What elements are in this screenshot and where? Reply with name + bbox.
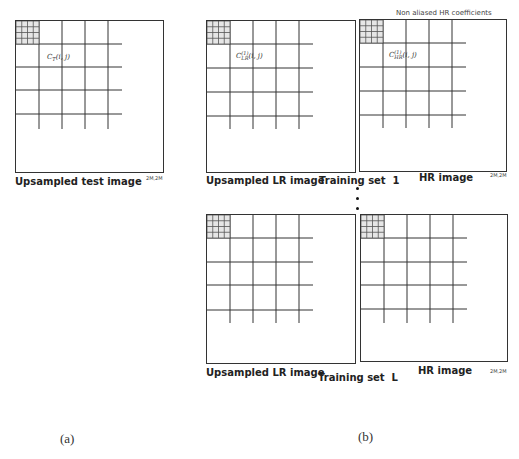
non-aliased-hr-annotation: Non aliased HR coefficients <box>396 9 492 17</box>
training-set-l-hr-label: HR image <box>418 365 472 376</box>
training-set-l-lr-panel <box>206 214 356 364</box>
training-set-1-hr-label: HR image <box>419 172 473 183</box>
training-set-l-lr-label: Upsampled LR image <box>206 367 325 378</box>
training-set-1-lr-panel: C(1)LR(i, j) <box>206 20 356 173</box>
training-set-1-label: Training set 1 <box>319 175 400 186</box>
block-grid <box>16 21 165 174</box>
hr-coefficient-label: C(1)HR(i, j) <box>389 50 417 60</box>
block-grid <box>207 215 357 365</box>
block-grid <box>207 21 357 174</box>
upsampled-test-image-label: Upsampled test image <box>15 176 142 187</box>
upsampled-test-image-panel: CT(i, j) <box>15 20 164 173</box>
ellipsis-dot <box>356 187 359 190</box>
test-coefficient-label: CT(i, j) <box>47 53 70 62</box>
size-tag-b1: 2M,2M <box>490 172 507 178</box>
lr-coefficient-label: C(1)LR(i, j) <box>236 51 263 61</box>
size-tag-bl: 2M,2M <box>490 368 507 374</box>
training-set-l-label: Training set L <box>318 372 398 383</box>
block-grid <box>360 20 508 173</box>
ellipsis-dot <box>356 197 359 200</box>
training-set-1-lr-label: Upsampled LR image <box>206 175 325 186</box>
training-set-1-hr-panel: C(1)HR(i, j) <box>359 19 507 172</box>
ellipsis-dot <box>356 207 359 210</box>
caption-b: (b) <box>358 429 373 445</box>
size-tag-a: 2M,2M <box>146 175 163 181</box>
training-set-l-hr-panel <box>360 214 508 362</box>
caption-a: (a) <box>60 431 74 447</box>
block-grid <box>361 215 509 363</box>
